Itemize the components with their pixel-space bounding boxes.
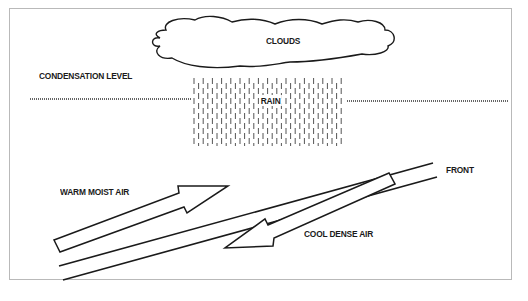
rain-field: [194, 78, 341, 146]
condensation-level-label: CONDENSATION LEVEL: [39, 70, 132, 81]
front-label: FRONT: [446, 164, 474, 175]
rain-label: RAIN: [259, 95, 282, 106]
clouds-label: CLOUDS: [266, 35, 300, 46]
cool-air-label: COOL DENSE AIR: [304, 228, 373, 239]
frontal-rain-diagram: [0, 0, 528, 301]
warm-air-label: WARM MOIST AIR: [60, 186, 129, 197]
